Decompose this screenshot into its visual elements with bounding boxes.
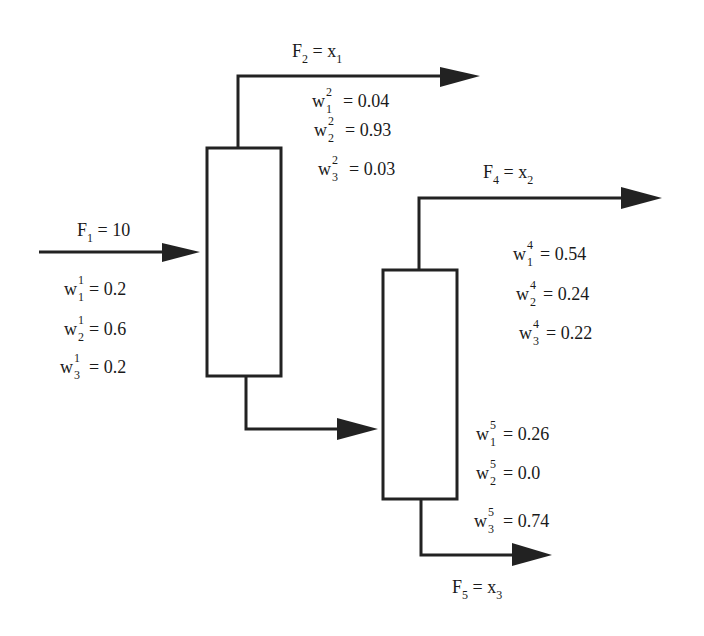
stream-f3-line bbox=[246, 376, 345, 429]
arrow-head-icon bbox=[621, 187, 662, 209]
stream-f4-label: F4 = x2 bbox=[483, 163, 533, 183]
f5-w2: w52= 0.0 bbox=[476, 464, 540, 482]
f4-w1: w41= 0.54 bbox=[513, 245, 586, 263]
stream-equals: = x bbox=[313, 41, 337, 61]
f2-w1: w21= 0.04 bbox=[312, 92, 389, 110]
arrow-head-icon bbox=[512, 543, 552, 566]
var-index: 1 bbox=[336, 52, 342, 66]
arrow-head-icon bbox=[162, 243, 200, 262]
f4-w2: w42= 0.24 bbox=[516, 285, 589, 303]
stream-f2-label: F2 = x1 bbox=[292, 42, 342, 62]
column-1 bbox=[207, 148, 281, 376]
f5-w1: w51= 0.26 bbox=[476, 425, 549, 443]
stream-name: F bbox=[292, 41, 302, 61]
arrow-head-icon bbox=[440, 67, 480, 87]
f2-w2: w22= 0.93 bbox=[314, 121, 391, 139]
stream-index: 2 bbox=[302, 52, 308, 66]
stream-f5-label: F5 = x3 bbox=[452, 578, 502, 598]
f1-w2: w12= 0.6 bbox=[64, 320, 126, 338]
stream-f1-label: F1 = 10 bbox=[77, 221, 130, 241]
f1-w3: w13= 0.2 bbox=[60, 358, 126, 376]
arrow-head-icon bbox=[337, 418, 378, 440]
f1-w1: w11= 0.2 bbox=[64, 280, 126, 298]
f2-w3: w23= 0.03 bbox=[318, 160, 395, 178]
column-2 bbox=[383, 270, 457, 499]
f5-w3: w53= 0.74 bbox=[474, 512, 549, 530]
f4-w3: w43= 0.22 bbox=[519, 324, 592, 342]
